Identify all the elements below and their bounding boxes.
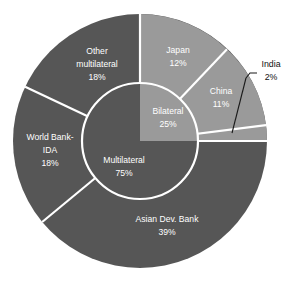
label-japan-value: 12% xyxy=(169,58,187,68)
label-japan-name: Japan xyxy=(166,45,190,55)
label-india-value: 2% xyxy=(265,72,278,82)
label-india: India 2% xyxy=(261,59,280,82)
label-bilateral-name: Bilateral xyxy=(152,106,183,116)
label-other-multilateral-value: 18% xyxy=(88,72,106,82)
label-india-name: India xyxy=(261,59,280,69)
label-multilateral-name: Multilateral xyxy=(103,155,145,165)
donut-chart-canvas: Japan 12% China 11% India 2% Bilateral 2… xyxy=(0,0,292,288)
label-bilateral-value: 25% xyxy=(159,119,177,129)
label-asian-dev-bank-value: 39% xyxy=(158,227,176,237)
label-other-multilateral-line1: Other xyxy=(86,46,108,56)
label-world-bank-ida-value: 18% xyxy=(41,158,59,168)
label-multilateral-value: 75% xyxy=(115,168,133,178)
label-china-name: China xyxy=(210,86,233,96)
label-world-bank-ida-line2: IDA xyxy=(43,145,58,155)
label-china-value: 11% xyxy=(213,99,230,109)
label-asian-dev-bank-name: Asian Dev. Bank xyxy=(136,214,200,224)
label-other-multilateral-line2: multilateral xyxy=(76,59,118,69)
label-world-bank-ida-line1: World Bank- xyxy=(26,132,73,142)
donut-chart: Japan 12% China 11% India 2% Bilateral 2… xyxy=(0,0,292,288)
inner-pie-group xyxy=(82,83,198,199)
